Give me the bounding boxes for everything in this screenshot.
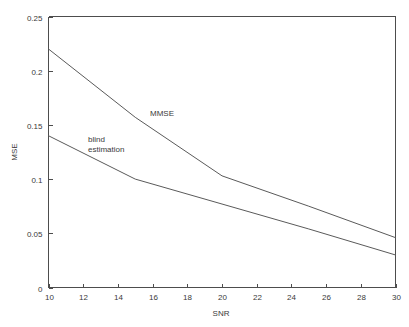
- x-tick-label: 12: [79, 293, 88, 302]
- series-annotation-blind-line1: blind: [88, 135, 105, 144]
- y-tick-label: 0.05: [27, 230, 43, 239]
- x-tick-label: 20: [218, 293, 227, 302]
- y-tick-label: 0.2: [31, 68, 43, 77]
- mse-vs-snr-plot: 00.050.10.150.20.25 10121416182022242628…: [0, 0, 409, 327]
- x-tick-label: 16: [149, 293, 158, 302]
- x-tick-label: 22: [253, 293, 262, 302]
- x-tick-label: 24: [287, 293, 296, 302]
- x-axis-title: SNR: [213, 309, 230, 318]
- x-tick-label: 18: [183, 293, 192, 302]
- x-ticks: 1012141618202224262830: [45, 284, 401, 302]
- y-tick-label: 0.1: [31, 176, 43, 185]
- y-axis-title: MSE: [10, 143, 19, 160]
- x-tick-label: 26: [322, 293, 331, 302]
- y-tick-label: 0: [38, 285, 43, 294]
- x-tick-label: 10: [45, 293, 54, 302]
- series-annotation-mmse: MMSE: [150, 109, 174, 118]
- x-tick-label: 28: [357, 293, 366, 302]
- chart-screenshot: 00.050.10.150.20.25 10121416182022242628…: [0, 0, 409, 327]
- y-tick-label: 0.15: [27, 122, 43, 131]
- series-annotation-blind-line2: estimation: [88, 145, 124, 154]
- x-tick-label: 14: [114, 293, 123, 302]
- x-tick-label: 30: [392, 293, 401, 302]
- y-tick-label: 0.25: [27, 14, 43, 23]
